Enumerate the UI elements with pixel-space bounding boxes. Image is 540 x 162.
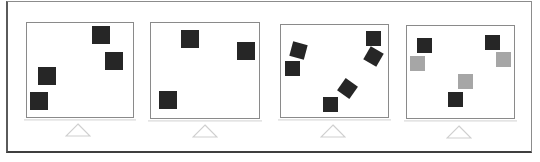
dark-square <box>38 67 56 85</box>
dark-square <box>485 35 500 50</box>
dark-square <box>323 97 338 112</box>
light-square <box>458 74 473 89</box>
dark-square <box>237 42 255 60</box>
dark-square <box>30 92 48 110</box>
light-square <box>410 56 425 71</box>
triangle-marker-icon <box>320 124 346 138</box>
panel-shelf <box>404 120 517 122</box>
triangle-marker-icon <box>65 123 91 137</box>
dark-square <box>105 52 123 70</box>
dark-square <box>181 30 199 48</box>
light-square <box>496 52 511 67</box>
panel-shelf <box>278 119 391 121</box>
dark-square <box>159 91 177 109</box>
dark-square <box>417 38 432 53</box>
dark-square <box>366 31 381 46</box>
panel-shelf <box>148 120 262 122</box>
dark-square <box>92 26 110 44</box>
dark-square <box>285 61 300 76</box>
triangle-marker-icon <box>192 124 218 138</box>
dark-square <box>448 92 463 107</box>
triangle-marker-icon <box>446 125 472 139</box>
panel-shelf <box>24 119 136 121</box>
